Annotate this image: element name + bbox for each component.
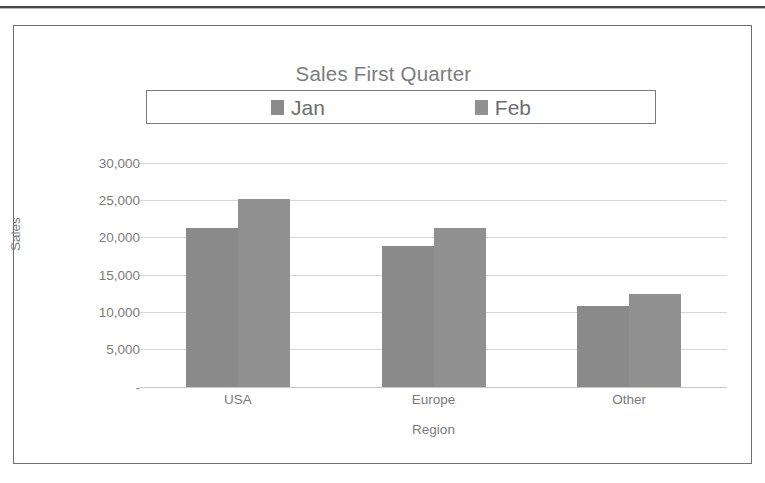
page-root: Sales First Quarter Jan Feb 30,000 25,00… (0, 0, 765, 483)
legend-item-jan[interactable]: Jan (271, 97, 325, 118)
plot-area (140, 163, 727, 387)
y-axis-tick-labels: 30,000 25,000 20,000 15,000 10,000 5,000… (67, 163, 140, 387)
y-tick-10000: 10,000 (99, 305, 140, 320)
bar-other-jan[interactable] (577, 306, 629, 387)
bars-layer (140, 163, 727, 387)
x-axis-tick-labels: USA Europe Other (140, 392, 727, 414)
chart-title: Sales First Quarter (14, 62, 753, 86)
x-tick-other: Other (612, 392, 646, 407)
x-tick-usa: USA (224, 392, 252, 407)
legend-label-jan: Jan (291, 97, 325, 118)
x-axis-title: Region (140, 422, 727, 437)
legend-item-feb[interactable]: Feb (475, 97, 531, 118)
y-axis-title: Sales (8, 217, 23, 251)
gridline-baseline (140, 387, 727, 388)
chart-legend[interactable]: Jan Feb (146, 90, 656, 124)
x-tick-europe: Europe (412, 392, 456, 407)
y-tick-20000: 20,000 (99, 230, 140, 245)
y-tick-15000: 15,000 (99, 267, 140, 282)
bar-europe-jan[interactable] (382, 246, 434, 387)
chart-container[interactable]: Sales First Quarter Jan Feb 30,000 25,00… (13, 25, 752, 464)
bar-other-feb[interactable] (629, 294, 681, 387)
legend-label-feb: Feb (495, 97, 531, 118)
bar-europe-feb[interactable] (434, 228, 486, 387)
y-tick-30000: 30,000 (99, 156, 140, 171)
legend-items: Jan Feb (147, 91, 655, 123)
bar-usa-jan[interactable] (186, 228, 238, 387)
legend-swatch-jan-icon (271, 100, 284, 115)
page-top-rule-shadow (0, 8, 765, 9)
y-tick-25000: 25,000 (99, 193, 140, 208)
legend-swatch-feb-icon (475, 100, 488, 115)
y-tick-5000: 5,000 (106, 342, 140, 357)
bar-usa-feb[interactable] (238, 199, 290, 387)
